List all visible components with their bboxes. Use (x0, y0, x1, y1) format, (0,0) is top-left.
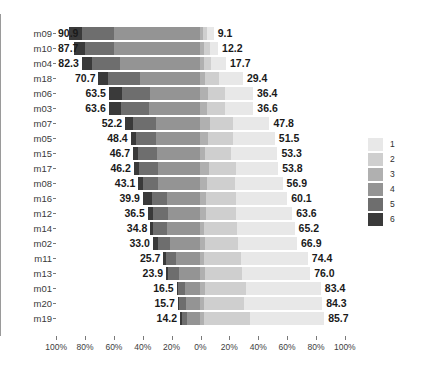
left-total-value: 23.9 (58, 266, 163, 281)
bar-segment-1 (210, 42, 218, 55)
y-axis-tick (53, 108, 56, 109)
legend-label: 3 (390, 168, 395, 181)
bar-segment-5 (168, 267, 178, 280)
stacked-bar (163, 252, 307, 265)
bar-segment-5 (143, 177, 159, 190)
stacked-bar (134, 162, 278, 175)
bar-segment-4 (156, 132, 200, 145)
bar-row: m0116.583.4 (0, 281, 426, 296)
bar-row: m2015.784.3 (0, 296, 426, 311)
bar-segment-4 (114, 27, 200, 40)
legend-swatch-5 (368, 198, 383, 211)
bar-segment-6 (98, 72, 107, 85)
category-label: m15 (16, 146, 52, 161)
bar-segment-2 (205, 282, 246, 295)
y-axis-tick (53, 228, 56, 229)
left-total-value: 15.7 (58, 296, 175, 311)
x-axis-tick-label: 40% (134, 342, 151, 352)
bar-segment-2 (209, 162, 236, 175)
bar-segment-1 (237, 222, 295, 235)
bar-row: m1870.729.4 (0, 71, 426, 86)
x-axis-tick (114, 336, 115, 340)
bar-segment-4 (157, 147, 200, 160)
bar-segment-4 (186, 297, 201, 310)
left-total-value: 36.5 (58, 206, 145, 221)
x-axis-tick-label: 100% (334, 342, 356, 352)
stacked-bar (148, 207, 292, 220)
bar-segment-1 (244, 297, 322, 310)
legend-item: 1 (368, 137, 414, 152)
legend-label: 1 (390, 138, 395, 151)
category-label: m06 (16, 86, 52, 101)
x-axis-tick (316, 336, 317, 340)
stacked-bar (150, 222, 294, 235)
right-total-value: 84.3 (326, 296, 346, 311)
bar-segment-4 (185, 282, 200, 295)
bar-row: m0752.247.8 (0, 116, 426, 131)
left-total-value: 90.9 (58, 26, 66, 41)
bar-segment-6 (82, 57, 93, 70)
bar-row: m1087.712.2 (0, 41, 426, 56)
bar-segment-5 (166, 252, 176, 265)
bar-row: m1434.865.2 (0, 221, 426, 236)
category-label: m13 (16, 266, 52, 281)
left-total-value: 43.1 (58, 176, 135, 191)
bar-segment-4 (176, 252, 201, 265)
bar-segment-1 (233, 117, 270, 130)
bar-segment-2 (208, 132, 233, 145)
x-axis-tick (345, 336, 346, 340)
category-label: m19 (16, 311, 52, 326)
bar-row: m0233.066.9 (0, 236, 426, 251)
left-total-value: 87.7 (58, 41, 71, 56)
bar-segment-2 (208, 87, 225, 100)
right-total-value: 63.6 (296, 206, 316, 221)
legend-swatch-2 (368, 153, 383, 166)
bar-row: m0363.636.6 (0, 101, 426, 116)
category-label: m03 (16, 101, 52, 116)
bar-segment-1 (250, 312, 324, 325)
bar-segment-1 (236, 192, 287, 205)
y-axis-tick (53, 273, 56, 274)
bar-segment-1 (238, 237, 297, 250)
category-label: m07 (16, 116, 52, 131)
category-label: m05 (16, 131, 52, 146)
left-total-value: 34.8 (58, 221, 147, 236)
legend-swatch-1 (368, 138, 383, 151)
bar-segment-4 (167, 222, 201, 235)
bar-segment-5 (153, 222, 167, 235)
stacked-bar (74, 42, 218, 55)
bar-segment-3 (200, 132, 207, 145)
stacked-bar (131, 132, 275, 145)
bar-row: m0843.156.9 (0, 176, 426, 191)
bar-segment-4 (158, 177, 200, 190)
left-total-value: 63.5 (58, 86, 106, 101)
bar-segment-4 (187, 312, 200, 325)
x-axis-tick (229, 336, 230, 340)
stacked-bar (82, 57, 226, 70)
category-label: m08 (16, 176, 52, 191)
right-total-value: 65.2 (299, 221, 319, 236)
bar-segment-2 (205, 267, 242, 280)
right-total-value: 83.4 (325, 281, 345, 296)
x-axis-tick (201, 336, 202, 340)
bar-segment-1 (231, 147, 277, 160)
x-axis-tick-label: 40% (250, 342, 267, 352)
bar-segment-5 (92, 57, 120, 70)
legend: 123456 (368, 137, 414, 227)
left-total-value: 52.2 (58, 116, 122, 131)
legend-swatch-3 (368, 168, 383, 181)
y-axis-tick (53, 138, 56, 139)
stacked-bar (166, 267, 310, 280)
bar-segment-5 (108, 72, 140, 85)
bar-segment-5 (121, 102, 149, 115)
bar-segment-4 (150, 87, 201, 100)
stacked-bar (177, 282, 321, 295)
bar-row: m1125.774.4 (0, 251, 426, 266)
x-axis-tick-label: 60% (105, 342, 122, 352)
bar-segment-2 (207, 102, 225, 115)
bar-segment-5 (136, 132, 157, 145)
category-label: m18 (16, 71, 52, 86)
right-total-value: 17.7 (230, 56, 250, 71)
bar-segment-1 (236, 162, 278, 175)
bar-segment-3 (200, 87, 208, 100)
